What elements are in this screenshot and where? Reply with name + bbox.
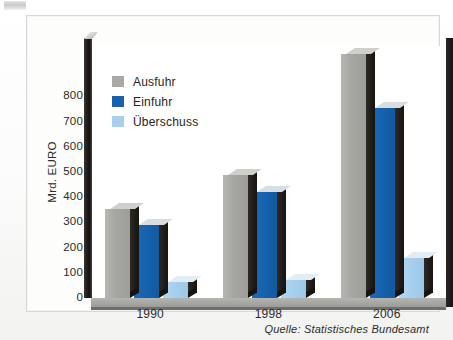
bar-side-face	[159, 220, 168, 293]
legend-item-label: Überschuss	[133, 115, 198, 129]
y-tick-label: 800	[43, 89, 83, 101]
bar-1990-ausfuhr	[105, 209, 130, 298]
axis-wall	[84, 38, 92, 298]
legend-swatch-icon	[112, 96, 124, 107]
y-tick-label: 0	[43, 291, 83, 303]
y-tick-label: 600	[43, 140, 83, 152]
source-caption: Quelle: Statistisches Bundesamt	[264, 323, 429, 335]
axis-wall-top	[84, 32, 98, 39]
bar-side-face	[277, 187, 286, 293]
x-tick-label: 1998	[224, 307, 314, 321]
y-tick-label: 100	[43, 266, 83, 278]
bar-front-face	[223, 175, 248, 298]
legend-item-label: Ausfuhr	[133, 75, 176, 89]
legend: Ausfuhr Einfuhr Überschuss	[112, 73, 198, 133]
legend-item-label: Einfuhr	[133, 95, 172, 109]
y-axis-ticks: 0100200300400500600700800	[35, 16, 83, 311]
y-tick-label: 400	[43, 190, 83, 202]
bar-1998-ausfuhr	[223, 175, 248, 298]
legend-swatch-icon	[112, 76, 124, 87]
legend-swatch-icon	[112, 116, 124, 127]
y-tick-label: 300	[43, 215, 83, 227]
scan-artifact	[4, 1, 26, 10]
legend-item-ueberschuss: Überschuss	[112, 113, 198, 130]
chart-page: Mrd. EURO 0100200300400500600700800 1990…	[0, 0, 453, 340]
legend-item-einfuhr: Einfuhr	[112, 93, 198, 110]
chart-floor	[91, 298, 446, 307]
x-tick-label: 2006	[342, 307, 432, 321]
bar-front-face	[105, 209, 130, 298]
bar-side-face	[130, 204, 139, 293]
right-wall	[446, 38, 453, 307]
y-tick-label: 200	[43, 241, 83, 253]
bar-side-face	[248, 170, 257, 293]
bar-side-face	[424, 253, 433, 293]
bar-2006-ausfuhr	[341, 54, 366, 298]
y-tick-label: 700	[43, 115, 83, 127]
bar-side-face	[366, 49, 375, 293]
chart-frame: Mrd. EURO 0100200300400500600700800 1990…	[26, 15, 440, 312]
legend-item-ausfuhr: Ausfuhr	[112, 73, 198, 90]
bar-side-face	[395, 103, 404, 293]
bar-front-face	[341, 54, 366, 298]
y-tick-label: 500	[43, 165, 83, 177]
x-tick-label: 1990	[105, 307, 195, 321]
